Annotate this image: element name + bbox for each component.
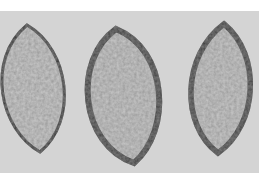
lens-shapes-figure bbox=[0, 11, 259, 173]
lens-shape-2 bbox=[88, 29, 160, 163]
lens-shape-3 bbox=[191, 24, 250, 153]
photograph bbox=[0, 11, 259, 173]
lens-shape-1 bbox=[2, 25, 65, 152]
